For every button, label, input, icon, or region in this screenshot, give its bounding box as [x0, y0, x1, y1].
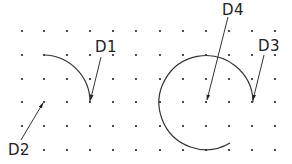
- grid-dot: [21, 54, 23, 56]
- grid-dot: [159, 54, 161, 56]
- grid-dot: [89, 78, 91, 80]
- grid-dot: [228, 78, 230, 80]
- label-d4: D4: [222, 3, 244, 18]
- grid-dot: [251, 78, 253, 80]
- grid-dot: [112, 125, 114, 127]
- d4-leader: [207, 17, 228, 100]
- d1-leader: [91, 57, 102, 100]
- grid-dot: [251, 54, 253, 56]
- grid-dot: [251, 125, 253, 127]
- grid-dot: [89, 149, 91, 151]
- grid-dot: [274, 78, 276, 80]
- grid-dot: [228, 101, 230, 103]
- grid-dot: [182, 78, 184, 80]
- grid-dot: [205, 78, 207, 80]
- label-d2: D2: [8, 143, 30, 158]
- grid-dot: [159, 78, 161, 80]
- grid-dot: [182, 149, 184, 151]
- d2-leader: [21, 103, 43, 140]
- grid-dot: [135, 78, 137, 80]
- d3-leader: [253, 55, 264, 100]
- grid-dot: [135, 54, 137, 56]
- grid-dot: [182, 54, 184, 56]
- grid-dot: [66, 149, 68, 151]
- grid-dot: [205, 125, 207, 127]
- grid-dot: [21, 30, 23, 32]
- grid-dot: [274, 149, 276, 151]
- grid-dot: [112, 149, 114, 151]
- diagram-canvas: D1 D2 D3 D4: [0, 0, 292, 164]
- grid-dot: [21, 125, 23, 127]
- grid-dot: [112, 30, 114, 32]
- grid-dot: [66, 54, 68, 56]
- grid-dot: [228, 54, 230, 56]
- grid-dot: [66, 101, 68, 103]
- grid-dot: [251, 149, 253, 151]
- grid-dot: [112, 78, 114, 80]
- grid-dot: [66, 30, 68, 32]
- grid-dot: [251, 30, 253, 32]
- label-d1: D1: [95, 40, 117, 55]
- grid-dot: [228, 125, 230, 127]
- grid-dot: [135, 149, 137, 151]
- grid-dot: [21, 101, 23, 103]
- grid-dot: [182, 101, 184, 103]
- grid-dot: [21, 78, 23, 80]
- grid-dot: [112, 101, 114, 103]
- grid-dot: [66, 78, 68, 80]
- grid-dot: [182, 125, 184, 127]
- grid-dot: [274, 30, 276, 32]
- grid-dot: [135, 30, 137, 32]
- grid-dot: [274, 125, 276, 127]
- grid-dot: [89, 125, 91, 127]
- grid-dot: [43, 78, 45, 80]
- grid-dot: [43, 149, 45, 151]
- grid-dot: [43, 30, 45, 32]
- grid-dot: [274, 101, 276, 103]
- grid-dot: [205, 30, 207, 32]
- grid-dot: [159, 149, 161, 151]
- grid-dot: [135, 125, 137, 127]
- grid-dot: [135, 101, 137, 103]
- grid-dot: [228, 149, 230, 151]
- grid-dot: [89, 54, 91, 56]
- label-d3: D3: [258, 39, 280, 54]
- grid-dot: [66, 125, 68, 127]
- grid-dot: [159, 30, 161, 32]
- grid-dot: [43, 125, 45, 127]
- grid-dot: [159, 125, 161, 127]
- dot-grid: [21, 30, 276, 151]
- grid-dot: [89, 30, 91, 32]
- grid-dot: [228, 30, 230, 32]
- grid-dot: [205, 101, 207, 103]
- diagram-svg: [0, 0, 292, 164]
- grid-dot: [182, 30, 184, 32]
- grid-dot: [43, 101, 45, 103]
